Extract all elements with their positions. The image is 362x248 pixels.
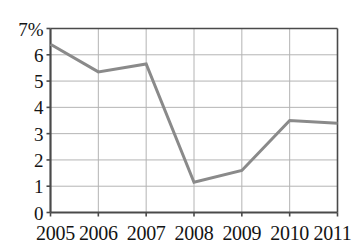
y-axis-tick-label: 1: [34, 177, 44, 196]
y-axis-tick-label: 2: [34, 150, 44, 169]
x-axis-tick-label: 2005: [36, 223, 75, 243]
y-axis-tick-label: 5: [34, 72, 44, 91]
x-axis-tick-label: 2011: [313, 223, 351, 243]
y-axis-tick-label: 7%: [18, 19, 43, 38]
x-axis-tick-label: 2009: [222, 223, 261, 243]
y-axis-tick-label: 4: [34, 98, 44, 117]
x-axis-tick-label: 2007: [127, 223, 166, 243]
line-chart-figure: 01234567% 2005200620072008200920102011: [0, 0, 362, 248]
chart-plot-area: [0, 0, 362, 248]
y-axis-tick-label: 3: [34, 124, 44, 143]
x-axis-tick-label: 2008: [175, 223, 214, 243]
x-axis-tick-label: 2010: [270, 223, 309, 243]
vertical-gridlines: [98, 29, 289, 213]
y-axis-tick-label: 6: [34, 45, 44, 64]
x-axis-tick-label: 2006: [79, 223, 118, 243]
y-axis-tick-label: 0: [34, 203, 44, 222]
